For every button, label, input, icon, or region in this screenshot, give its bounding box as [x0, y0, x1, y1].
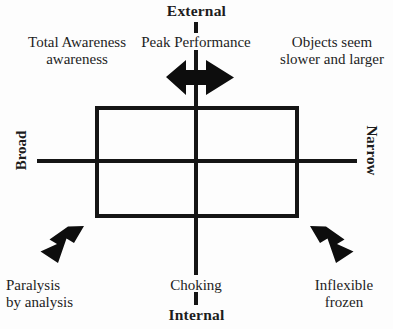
- caption-bottom-left-paralysis-by-analysis: Paralysis by analysis: [6, 277, 126, 311]
- caption-bottom-center-choking: Choking: [136, 277, 256, 294]
- axis-label-external: External: [0, 2, 393, 19]
- arrow-down-right-icon: [310, 226, 354, 263]
- double-headed-horizontal-arrow: [166, 60, 234, 95]
- attention-matrix-diagram: External Internal Broad Narrow Total Awa…: [0, 0, 393, 329]
- axis-label-narrow: Narrow: [364, 118, 381, 182]
- caption-top-center-peak-performance: Peak Performance: [116, 34, 276, 51]
- axis-label-broad: Broad: [13, 120, 30, 180]
- caption-bottom-right-inflexible-frozen: Inflexible frozen: [296, 277, 392, 311]
- caption-top-right-objects-seem-slower: Objects seem slower and larger: [272, 34, 392, 68]
- arrow-down-left-icon: [41, 226, 85, 263]
